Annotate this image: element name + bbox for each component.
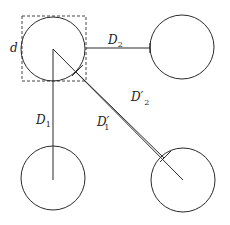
label-d1-sub: 1 — [46, 120, 51, 129]
distance-diagram: d D1 D2 D′1 D′2 — [0, 0, 230, 225]
label-d1-prime-sub: 1 — [104, 123, 109, 132]
label-d1-main: D — [35, 113, 46, 127]
label-d2-prime: D′2 — [130, 90, 149, 107]
label-d: d — [10, 41, 18, 55]
label-d2: D2 — [107, 33, 123, 49]
line-d2-prime — [76, 72, 164, 158]
label-d1-prime: D′1 — [96, 115, 110, 132]
label-d2-prime-sub: 2 — [144, 98, 149, 107]
label-d2-sub: 2 — [118, 40, 123, 49]
circle-top-right — [150, 15, 214, 79]
label-d2-main: D — [107, 33, 118, 47]
line-d1-prime — [53, 49, 183, 180]
label-d1: D1 — [35, 113, 51, 129]
label-d2-prime-main: D′ — [130, 90, 144, 104]
